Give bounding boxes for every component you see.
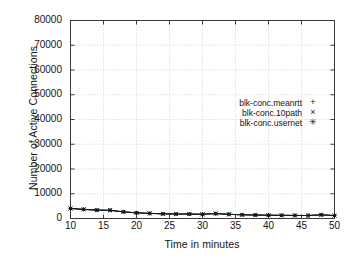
x-tick-label: 45 [287, 220, 317, 231]
legend-item: blk-conc.usernet✳ [206, 118, 324, 128]
x-tick-label: 15 [89, 220, 119, 231]
y-tick-label: 0 [10, 212, 62, 223]
legend-marker-icon: + [302, 98, 324, 107]
x-tick-label: 10 [56, 220, 86, 231]
x-axis-title: Time in minutes [70, 238, 334, 250]
x-tick-label: 40 [254, 220, 284, 231]
x-tick-label: 20 [122, 220, 152, 231]
x-tick-label: 25 [155, 220, 185, 231]
legend-label: blk-conc.meanrtt [239, 98, 302, 108]
legend-label: blk-conc.10path [242, 108, 302, 118]
legend-item: blk-conc.10path× [206, 108, 324, 118]
data-series [69, 206, 337, 217]
legend-label: blk-conc.usernet [240, 118, 302, 128]
x-tick-label: 50 [320, 220, 350, 231]
x-tick-label: 35 [221, 220, 251, 231]
x-tick-label: 30 [188, 220, 218, 231]
y-axis-title: Number of Active Connections [27, 23, 39, 213]
legend-marker-icon: ✳ [302, 118, 324, 127]
chart-container: 0100002000030000400005000060000700008000… [0, 0, 354, 260]
chart-legend: blk-conc.meanrtt+blk-conc.10path×blk-con… [206, 98, 324, 128]
legend-item: blk-conc.meanrtt+ [206, 98, 324, 108]
legend-marker-icon: × [302, 108, 324, 117]
